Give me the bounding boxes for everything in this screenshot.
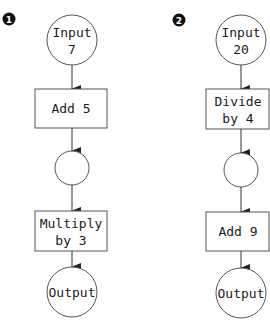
- input-node: Input 20: [216, 15, 266, 65]
- svg-text:Output: Output: [218, 286, 265, 301]
- svg-text:Output: Output: [49, 285, 96, 300]
- svg-text:7: 7: [68, 42, 76, 57]
- svg-text:1: 1: [6, 15, 12, 25]
- flowchart-1: 1 Input 7 Add 5 Multiply by 3 Output: [3, 13, 108, 318]
- badge-2: 2: [173, 14, 186, 27]
- badge-1: 1: [3, 13, 16, 26]
- intermediate-node: [224, 153, 258, 187]
- intermediate-node: [55, 151, 89, 185]
- svg-text:Input: Input: [221, 25, 260, 40]
- svg-text:by 3: by 3: [55, 233, 86, 248]
- svg-text:2: 2: [176, 16, 182, 26]
- step1-box: Add 5: [35, 89, 107, 128]
- input-node: Input 7: [47, 15, 97, 65]
- svg-text:Input: Input: [52, 25, 91, 40]
- svg-text:20: 20: [233, 42, 249, 57]
- step1-box: Divide by 4: [206, 89, 269, 129]
- svg-text:Multiply: Multiply: [40, 216, 103, 231]
- flowchart-canvas: 1 Input 7 Add 5 Multiply by 3 Output: [0, 0, 270, 335]
- svg-text:Divide: Divide: [215, 94, 262, 109]
- output-node: Output: [47, 267, 97, 317]
- output-node: Output: [216, 268, 266, 318]
- svg-text:Add 9: Add 9: [218, 224, 257, 239]
- step2-box: Multiply by 3: [35, 211, 107, 251]
- svg-text:by 4: by 4: [222, 111, 253, 126]
- flowchart-2: 2 Input 20 Divide by 4 Add 9 Output: [173, 14, 270, 319]
- step2-box: Add 9: [206, 212, 269, 251]
- svg-text:Add 5: Add 5: [51, 101, 90, 116]
